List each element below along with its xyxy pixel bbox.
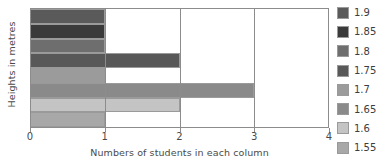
legend-item: 1.85 xyxy=(337,22,389,41)
legend-swatch xyxy=(337,103,349,115)
legend-label: 1.65 xyxy=(354,104,376,115)
legend-label: 1.55 xyxy=(354,142,376,153)
legend-label: 1.8 xyxy=(354,46,370,57)
legend-item: 1.9 xyxy=(337,3,389,22)
legend-label: 1.6 xyxy=(354,123,370,134)
legend-item: 1.75 xyxy=(337,61,389,80)
plot-area xyxy=(30,8,329,128)
legend-swatch xyxy=(337,122,349,134)
legend-item: 1.7 xyxy=(337,80,389,99)
legend-swatch xyxy=(337,84,349,96)
legend-item: 1.6 xyxy=(337,119,389,138)
legend-label: 1.75 xyxy=(354,65,376,76)
legend-item: 1.55 xyxy=(337,138,389,157)
legend-label: 1.7 xyxy=(354,84,370,95)
y-axis-title-label: Heights in metres xyxy=(6,21,17,107)
legend-swatch xyxy=(337,65,349,77)
x-axis-tick-label: 3 xyxy=(242,131,266,142)
bar xyxy=(31,83,254,98)
legend-item: 1.8 xyxy=(337,42,389,61)
x-axis-tick-label: 2 xyxy=(168,131,192,142)
y-axis-title: Heights in metres xyxy=(0,0,22,128)
legend-swatch xyxy=(337,7,349,19)
legend: 1.91.851.81.751.71.651.61.55 xyxy=(337,3,389,163)
bar xyxy=(31,39,105,54)
bar xyxy=(31,24,105,39)
bar xyxy=(31,9,105,24)
legend-label: 1.85 xyxy=(354,26,376,37)
bar xyxy=(31,68,105,83)
gridline xyxy=(105,9,106,127)
gridline xyxy=(180,9,181,127)
legend-swatch xyxy=(337,26,349,38)
legend-swatch xyxy=(337,142,349,154)
legend-label: 1.9 xyxy=(354,7,370,18)
bar xyxy=(31,112,105,127)
legend-item: 1.65 xyxy=(337,99,389,118)
x-axis-tick-label: 0 xyxy=(18,131,42,142)
legend-swatch xyxy=(337,45,349,57)
x-axis-tick-label: 1 xyxy=(93,131,117,142)
x-axis-title: Numbers of students in each column xyxy=(30,147,329,158)
gridline xyxy=(254,9,255,127)
bar-chart: Heights in metres 01234 Numbers of stude… xyxy=(0,0,389,166)
